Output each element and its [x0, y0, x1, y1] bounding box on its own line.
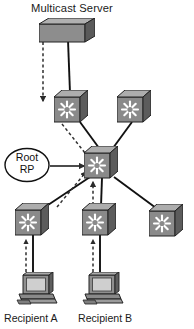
recipient-b-label: Recipient B: [78, 313, 132, 324]
switch-bottom-right-icon[interactable]: [149, 204, 183, 236]
recipient-a-label: Recipient A: [4, 313, 58, 324]
switch-bottom-middle-icon[interactable]: [82, 203, 116, 235]
switch-center-root-rp-icon[interactable]: [84, 146, 118, 178]
recipient-b-workstation-icon[interactable]: [83, 272, 123, 304]
network-diagram-canvas: Multicast Server Root RP Recipient A Rec…: [0, 0, 194, 329]
root-rp-label-line2: RP: [6, 164, 48, 175]
switch-top-left-icon[interactable]: [54, 90, 88, 122]
link-switch-top-right-to-center: [113, 122, 132, 148]
switch-bottom-left-icon[interactable]: [15, 203, 49, 235]
root-rp-label-line1: Root: [6, 152, 48, 163]
link-center-to-bottom-middle: [101, 178, 102, 206]
link-center-to-bottom-left: [45, 177, 90, 207]
multicast-server-icon[interactable]: [39, 18, 95, 42]
flow-bottom-left-to-center-arrow: [57, 172, 86, 207]
link-server-to-switch-top-left: [68, 40, 70, 93]
recipient-a-workstation-icon[interactable]: [17, 272, 57, 304]
link-center-to-bottom-right: [114, 177, 156, 208]
link-switch-top-left-to-center: [80, 122, 99, 148]
switch-top-right-icon[interactable]: [117, 90, 151, 122]
multicast-server-label: Multicast Server: [31, 3, 113, 14]
